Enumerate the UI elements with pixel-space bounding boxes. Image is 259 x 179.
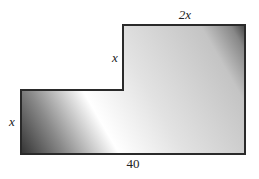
label-top: 2x [179, 7, 192, 22]
label-bottom: 40 [127, 156, 140, 171]
label-left: x [8, 114, 15, 129]
l-shape [21, 25, 245, 154]
label-notch-vertical: x [111, 50, 118, 65]
l-shape-diagram: 2x x x 40 [0, 0, 259, 179]
